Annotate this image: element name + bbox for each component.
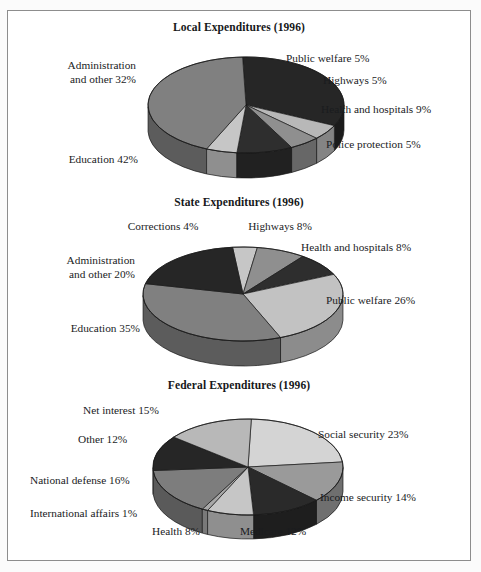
label-federal-health: Health 8% — [136, 525, 216, 539]
label-state-education: Education 35% — [30, 322, 140, 336]
label-federal-social-security: Social security 23% — [318, 428, 408, 442]
label-local-public-welfare: Public welfare 5% — [286, 52, 369, 66]
label-state-administration: Administration and other 20% — [20, 254, 135, 281]
label-federal-national-defense: National defense 16% — [30, 474, 130, 488]
label-local-health-hospitals: Health and hospitals 9% — [321, 103, 431, 117]
label-state-corrections: Corrections 4% — [108, 220, 218, 234]
label-federal-other: Other 12% — [78, 433, 127, 447]
label-local-police-protection: Police protection 5% — [326, 138, 421, 152]
chart-local-expenditures: Local Expenditures (1996) Administration… — [8, 21, 470, 196]
label-local-administration: Administration and other 32% — [24, 59, 136, 86]
chart-title-local: Local Expenditures (1996) — [8, 21, 470, 33]
chart-state-expenditures: State Expenditures (1996) Corrections 4%… — [8, 196, 470, 378]
chart-title-state: State Expenditures (1996) — [8, 196, 470, 208]
label-state-highways: Highways 8% — [230, 220, 330, 234]
label-federal-medicare: Medicare 12% — [223, 525, 323, 539]
label-state-health-hospitals: Health and hospitals 8% — [301, 241, 411, 255]
chart-title-federal: Federal Expenditures (1996) — [8, 379, 470, 391]
chart-federal-expenditures: Federal Expenditures (1996) Net interest… — [8, 379, 470, 559]
label-federal-net-interest: Net interest 15% — [83, 404, 159, 418]
figure-frame: Local Expenditures (1996) Administration… — [7, 10, 471, 561]
label-state-public-welfare: Public welfare 26% — [326, 294, 415, 308]
page-canvas: Local Expenditures (1996) Administration… — [0, 0, 481, 572]
label-federal-income-security: Income security 14% — [320, 491, 416, 505]
label-local-highways: Highways 5% — [323, 74, 387, 88]
label-federal-international-affairs: International affairs 1% — [30, 507, 137, 521]
label-local-education: Education 42% — [28, 153, 138, 167]
